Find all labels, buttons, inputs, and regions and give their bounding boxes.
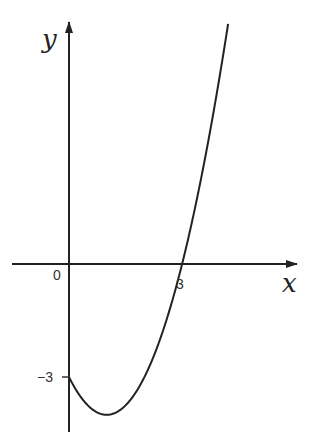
y-axis-label: y: [41, 24, 57, 54]
x-axis-label: x: [282, 268, 297, 298]
x-tick-label-3: 3: [176, 276, 184, 292]
origin-label: 0: [53, 267, 61, 283]
chart-canvas: y x 0 3 −3: [0, 0, 310, 437]
parabola-curve: [69, 24, 228, 415]
y-tick-label-neg3: −3: [37, 369, 53, 385]
